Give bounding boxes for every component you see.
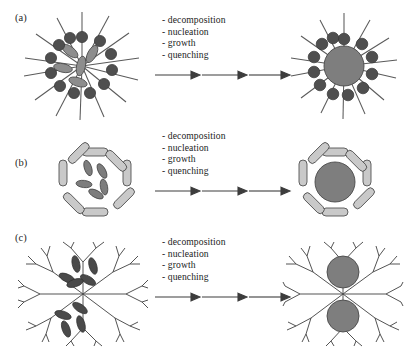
- panel-c: (c): [0, 228, 406, 353]
- precursor-ellipses-left: [54, 255, 99, 338]
- panel-a-step-3: - growth: [162, 37, 226, 49]
- panel-c-step-3: - growth: [162, 259, 226, 271]
- panel-b-arrows: [155, 184, 290, 198]
- panel-a-left-structure: [18, 10, 146, 122]
- panel-a: (a): [0, 0, 406, 128]
- panel-c-right-structure: [283, 242, 403, 346]
- panel-c-steps: - decomposition - nucleation - growth - …: [162, 236, 226, 282]
- nanoparticle-core-top: [327, 256, 359, 288]
- octagon-cage-left: [59, 141, 136, 216]
- panel-c-step-2: - nucleation: [162, 248, 226, 260]
- panel-a-step-4: - quenching: [162, 49, 226, 61]
- panel-a-arrows: [155, 68, 290, 82]
- nanoparticle-core: [324, 46, 364, 86]
- panel-c-arrows: [155, 290, 290, 304]
- panel-c-step-1: - decomposition: [162, 236, 226, 248]
- panel-b-step-2: - nucleation: [162, 142, 226, 154]
- panel-b-steps: - decomposition - nucleation - growth - …: [162, 130, 226, 176]
- panel-b: (b) - decomposition - nucl: [0, 128, 406, 228]
- panel-b-right-structure: [297, 146, 373, 218]
- panel-b-label: (b): [15, 157, 27, 168]
- panel-b-step-4: - quenching: [162, 165, 226, 177]
- panel-a-right-structure: [288, 10, 400, 122]
- panel-b-step-3: - growth: [162, 153, 226, 165]
- panel-b-step-1: - decomposition: [162, 130, 226, 142]
- panel-a-step-2: - nucleation: [162, 26, 226, 38]
- panel-c-step-4: - quenching: [162, 271, 226, 283]
- nanoparticle-core-bottom: [327, 300, 359, 332]
- panel-a-steps: - decomposition - nucleation - growth - …: [162, 14, 226, 60]
- panel-b-left-structure: [57, 146, 133, 218]
- nanoparticle-core: [315, 162, 355, 202]
- precursor-ellipses-left: [76, 159, 109, 201]
- panel-c-left-structure: [18, 242, 148, 346]
- panel-a-step-1: - decomposition: [162, 14, 226, 26]
